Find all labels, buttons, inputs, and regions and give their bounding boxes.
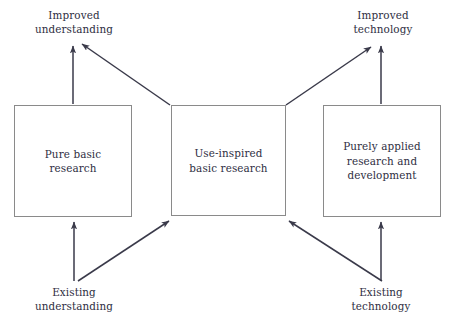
label-improved-technology: Improved technology [328,8,438,37]
node-use-inspired-basic-research[interactable]: Use-inspired basic research [171,105,286,216]
label-existing-understanding: Existing understanding [19,285,129,314]
node-purely-applied-research-and-development[interactable]: Purely applied research and development [323,105,441,217]
node-label-purely-applied-research-and-development: Purely applied research and development [337,139,427,182]
arrow-use-inspired-to-improved-technology [286,47,371,105]
arrow-existing-technology-to-use-inspired [289,221,382,281]
node-label-pure-basic-research: Pure basic research [39,147,107,176]
node-label-use-inspired-basic-research: Use-inspired basic research [183,146,273,175]
diagram-canvas: Pure basic research Use-inspired basic r… [0,0,452,330]
label-improved-understanding: Improved understanding [19,8,129,37]
arrow-existing-understanding-to-use-inspired [78,221,169,281]
arrow-use-inspired-to-improved-understanding [82,44,170,105]
node-pure-basic-research[interactable]: Pure basic research [14,105,132,217]
label-existing-technology: Existing technology [326,285,436,314]
